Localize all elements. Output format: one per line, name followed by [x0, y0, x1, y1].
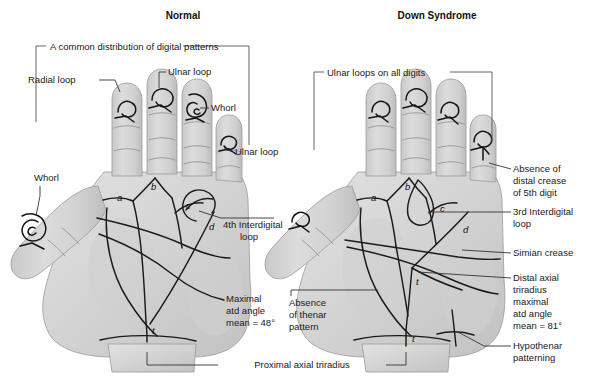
label-absence-distal-crease-line1: Absence of	[513, 163, 561, 174]
label-absence-thenar-line2: of thenar	[289, 309, 327, 320]
label-atd-down-line5: mean = 81°	[513, 320, 562, 331]
triradius-d-normal: d	[209, 221, 215, 232]
leader-whorl-thumb	[36, 186, 40, 216]
label-4th-interdigital-loop-line2: loop	[240, 231, 258, 242]
label-atd-down-line3: maximal	[513, 296, 548, 307]
triradius-a-normal: a	[117, 192, 122, 203]
label-3rd-interdigital-line2: loop	[513, 218, 531, 229]
triradius-t-distal-down: t	[416, 276, 419, 287]
label-hypothenar-line2: patterning	[513, 352, 555, 363]
label-hypothenar-line1: Hypothenar	[513, 340, 562, 351]
triradius-c-normal: c	[186, 200, 191, 211]
panel-title-down: Down Syndrome	[398, 10, 477, 21]
label-whorl-ring: Whorl	[211, 102, 236, 113]
normal-hand-illustration: a b c d t	[11, 69, 251, 372]
label-atd-down-line4: atd angle	[513, 308, 552, 319]
label-atd-normal-line2: atd angle	[226, 305, 265, 316]
triradius-b-normal: b	[151, 181, 156, 192]
triradius-t-proximal-down: t	[412, 333, 415, 344]
label-3rd-interdigital-line1: 3rd Interdigital	[513, 206, 573, 217]
label-atd-normal-line3: mean = 48°	[226, 317, 275, 328]
label-4th-interdigital-loop-line1: 4th Interdigital	[223, 219, 283, 230]
triradius-b-down: b	[405, 181, 410, 192]
label-whorl-thumb: Whorl	[34, 172, 59, 183]
panel-title-normal: Normal	[166, 10, 201, 21]
triradius-t-normal: t	[152, 325, 155, 336]
label-absence-distal-crease-line2: distal crease	[513, 175, 566, 186]
label-absence-distal-crease-line3: of 5th digit	[513, 187, 557, 198]
label-common-distribution: A common distribution of digital pattern…	[50, 41, 219, 52]
label-absence-thenar-line3: pattern	[289, 321, 319, 332]
triradius-d-down: d	[463, 224, 469, 235]
label-atd-down-line1: Distal axial	[513, 272, 559, 283]
label-ulnar-loop-middle: Ulnar loop	[168, 66, 211, 77]
label-atd-down-line2: triradius	[513, 284, 547, 295]
label-simian-crease: Simian crease	[513, 247, 573, 258]
label-atd-normal-line1: Maximal	[226, 293, 261, 304]
label-ulnar-loop-little: Ulnar loop	[235, 146, 278, 157]
triradius-a-down: a	[371, 192, 376, 203]
label-ulnar-loops-all-digits: Ulnar loops on all digits	[327, 67, 425, 78]
dermatoglyphics-figure: Normal Down Syndrome	[0, 0, 604, 382]
label-proximal-axial-triradius: Proximal axial triradius	[254, 359, 350, 370]
label-radial-loop: Radial loop	[28, 74, 76, 85]
label-absence-thenar-line1: Absence	[289, 297, 326, 308]
figure-canvas: Normal Down Syndrome	[0, 0, 604, 382]
